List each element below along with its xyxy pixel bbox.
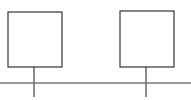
node-box [8, 12, 62, 67]
node-box [120, 11, 174, 67]
bus-diagram [0, 0, 191, 100]
